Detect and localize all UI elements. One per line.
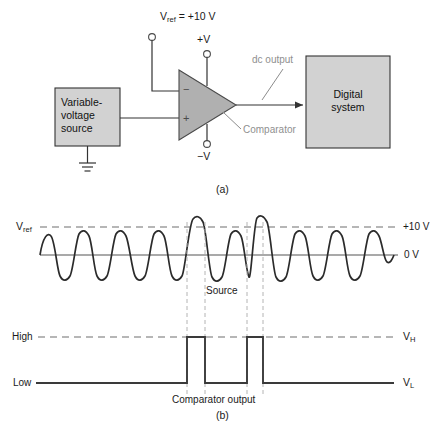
- negative-supply-label: −V: [197, 150, 210, 162]
- source-label-line-3: source: [61, 122, 117, 135]
- panel-b-caption: (b): [216, 409, 229, 421]
- positive-supply-label: +V: [197, 33, 210, 45]
- source-label-line-2: voltage: [61, 109, 117, 122]
- negative-supply-terminal-icon: [204, 141, 211, 148]
- vref-label-rest: = +10 V: [176, 10, 216, 22]
- vl-label-main: V: [403, 376, 410, 388]
- panel-b-vref-main: V: [16, 220, 23, 232]
- vl-label-sub: L: [410, 381, 414, 390]
- panel-b-vref-label: Vref: [16, 220, 32, 235]
- comparator-output-waveform: [36, 337, 394, 383]
- vref-label-main: V: [160, 10, 167, 22]
- vref-terminal-icon: [149, 34, 156, 41]
- dc-output-annotation: dc output: [252, 54, 293, 66]
- dc-output-leader-line: [262, 69, 283, 100]
- ground-symbol-icon: [79, 146, 96, 171]
- vl-label: VL: [403, 376, 414, 391]
- panel-a-caption: (a): [216, 183, 229, 195]
- high-level-label: High: [12, 331, 33, 343]
- vh-label-main: V: [403, 330, 410, 342]
- panel-b-output-graphics: [36, 337, 398, 383]
- output-arrowhead-icon: [295, 102, 303, 109]
- panel-b-source-graphics: [40, 216, 398, 395]
- vh-label-sub: H: [410, 335, 415, 344]
- source-label-line-1: Variable-: [61, 96, 117, 109]
- vref-label-sub: ref: [167, 15, 176, 24]
- source-annotation: Source: [206, 285, 238, 297]
- positive-supply-terminal-icon: [204, 51, 211, 58]
- vh-label: VH: [403, 330, 415, 345]
- noninverting-input-label: +: [183, 112, 189, 125]
- plus-ten-volts-label: +10 V: [403, 221, 429, 233]
- comparator-annotation: Comparator: [243, 124, 296, 136]
- inverting-input-label: −: [183, 83, 189, 96]
- zero-volts-label: 0 V: [404, 249, 419, 261]
- digital-label-line-2: system: [306, 101, 390, 114]
- figure-vector-layer: [0, 0, 448, 433]
- variable-voltage-source-label: Variable- voltage source: [61, 96, 117, 135]
- panel-b-vref-sub: ref: [23, 225, 32, 234]
- source-sine-waveform: [40, 216, 394, 281]
- vref-wire: [152, 41, 179, 91]
- comparator-leader-line: [223, 112, 241, 129]
- vref-label: Vref = +10 V: [160, 10, 216, 25]
- low-level-label: Low: [13, 377, 31, 389]
- comparator-output-annotation: Comparator output: [172, 394, 255, 406]
- comparator-figure: Vref = +10 V +V −V Variable- voltage sou…: [0, 0, 448, 433]
- digital-system-label: Digital system: [306, 88, 390, 114]
- digital-label-line-1: Digital: [306, 88, 390, 101]
